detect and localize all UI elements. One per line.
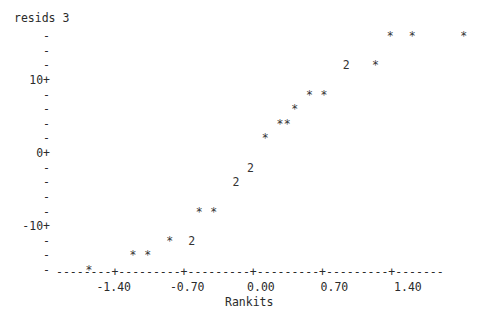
- data-point-marker: *: [460, 30, 467, 42]
- y-axis-minor-tick: -: [0, 103, 50, 115]
- data-point-marker: *: [130, 249, 137, 261]
- y-axis-minor-tick: -: [0, 132, 50, 144]
- page-title: resids 3: [14, 12, 69, 24]
- ascii-scatter-plot: resids 3 ---10+----0+-----10+--- ***2***…: [0, 0, 486, 324]
- data-point-cluster-marker: 2: [247, 162, 254, 174]
- y-axis-minor-tick: -: [0, 162, 50, 174]
- y-axis-minor-tick: -: [0, 235, 50, 247]
- x-axis-title: Rankits: [225, 296, 273, 308]
- y-axis-tick-label: 10+: [0, 74, 50, 86]
- y-axis-minor-tick: -: [0, 30, 50, 42]
- data-point-marker: *: [262, 132, 269, 144]
- data-point-marker: *: [306, 89, 313, 101]
- y-axis-minor-tick: -: [0, 191, 50, 203]
- data-point-cluster-marker: 2: [343, 59, 350, 71]
- data-point-cluster-marker: 2: [232, 176, 239, 188]
- data-point-cluster-marker: 2: [188, 235, 195, 247]
- y-axis-minor-tick: -: [0, 176, 50, 188]
- data-point-marker: *: [409, 30, 416, 42]
- data-point-marker: *: [372, 59, 379, 71]
- x-axis-tick-label: 0.00: [247, 281, 275, 293]
- data-point-marker: *: [387, 30, 394, 42]
- data-point-marker: *: [284, 118, 291, 130]
- x-axis-tick-label: -1.40: [96, 281, 131, 293]
- y-axis-minor-tick: -: [0, 45, 50, 57]
- data-point-marker: *: [277, 118, 284, 130]
- y-axis-tick-label: 0+: [0, 147, 50, 159]
- data-point-marker: *: [210, 206, 217, 218]
- y-axis-minor-tick: -: [0, 59, 50, 71]
- y-axis-minor-tick: -: [0, 89, 50, 101]
- data-point-marker: *: [166, 235, 173, 247]
- x-axis-tick-label: 0.70: [321, 281, 349, 293]
- y-axis-minor-tick: -: [0, 264, 50, 276]
- x-axis-tick-label: 1.40: [394, 281, 422, 293]
- y-axis-minor-tick: -: [0, 118, 50, 130]
- data-point-marker: *: [196, 206, 203, 218]
- y-axis-tick-label: -10+: [0, 220, 50, 232]
- data-point-marker: *: [144, 249, 151, 261]
- y-axis-minor-tick: -: [0, 206, 50, 218]
- data-point-marker: *: [321, 89, 328, 101]
- data-point-marker: *: [291, 103, 298, 115]
- x-axis-tick-label: -0.70: [170, 281, 205, 293]
- x-axis-line: --------+---------+---------+---------+-…: [56, 266, 444, 278]
- y-axis-minor-tick: -: [0, 249, 50, 261]
